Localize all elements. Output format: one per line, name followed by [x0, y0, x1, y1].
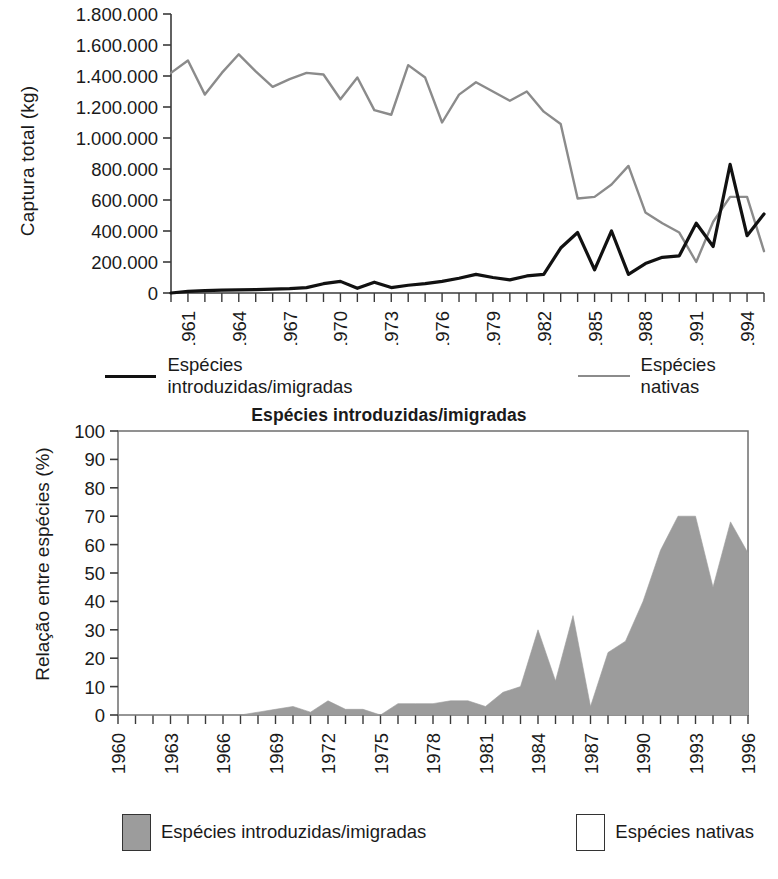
chart1-y-tick-label: 0 [148, 283, 158, 304]
chart2-x-tick-label: 1972 [318, 733, 339, 774]
chart1-y-tick-label: 600.000 [91, 190, 158, 211]
chart2-y-tick-label: 60 [84, 535, 105, 556]
chart1-series-introduzidas [171, 164, 764, 293]
chart1-y-tick-label: 400.000 [91, 221, 158, 242]
chart1-y-tick-label: 1.400.000 [76, 66, 158, 87]
chart1-plot: 0200.000400.000600.000800.0001.000.0001.… [0, 0, 778, 345]
chart2-x-tick-label: 1975 [371, 733, 392, 774]
chart1-x-tick-label: 1991 [686, 311, 707, 345]
chart2-y-tick-label: 90 [84, 449, 105, 470]
chart1-x-tick-label: 1961 [178, 311, 199, 345]
chart1-x-tick-label: 1979 [483, 311, 504, 345]
chart1-x-tick-label: 1973 [381, 311, 402, 345]
gray-line-swatch-icon [578, 375, 629, 377]
chart2-x-tick-label: 1993 [686, 733, 707, 774]
chart2-x-tick-label: 1963 [161, 733, 182, 774]
chart2-y-tick-label: 100 [74, 421, 105, 442]
chart2-x-tick-label: 1969 [266, 733, 287, 774]
chart2-x-tick-label: 1987 [581, 733, 602, 774]
chart2-x-tick-label: 1966 [213, 733, 234, 774]
chart2-y-tick-label: 70 [84, 506, 105, 527]
chart1-x-tick-label: 1976 [432, 311, 453, 345]
chart2-y-tick-label: 30 [84, 620, 105, 641]
chart1-x-tick-label: 1982 [534, 311, 555, 345]
chart1-series-nativas [171, 54, 764, 262]
chart2-plot: 0102030405060708090100196019631966196919… [0, 405, 778, 800]
chart2-x-tick-label: 1990 [633, 733, 654, 774]
chart2-y-tick-label: 20 [84, 648, 105, 669]
filled-box-swatch-icon [122, 814, 151, 851]
dark-line-swatch-icon [105, 375, 156, 378]
legend-label-nativas: Espécies nativas [641, 354, 778, 398]
chart1-x-tick-label: 1964 [229, 311, 250, 345]
chart2-legend: Espécies introduzidas/imigradas Espécies… [0, 808, 778, 856]
chart1-y-tick-label: 1.600.000 [76, 35, 158, 56]
chart1-y-tick-label: 1.000.000 [76, 128, 158, 149]
chart1-x-tick-label: 1988 [635, 311, 656, 345]
chart1-y-tick-label: 1.800.000 [76, 4, 158, 25]
chart2-area-introduzidas [118, 516, 748, 715]
chart1-y-tick-label: 1.200.000 [76, 97, 158, 118]
chart2-y-tick-label: 80 [84, 478, 105, 499]
legend2-label-introduzidas: Espécies introduzidas/imigradas [161, 821, 426, 843]
chart1-y-tick-label: 200.000 [91, 252, 158, 273]
figure-container: Captura total (kg) 0200.000400.000600.00… [0, 0, 778, 879]
legend-label-introduzidas: Espécies introduzidas/imigradas [167, 354, 430, 398]
chart2-x-tick-label: 1978 [423, 733, 444, 774]
legend2-item-introduzidas[interactable]: Espécies introduzidas/imigradas [122, 814, 426, 851]
chart1-x-tick-label: 1970 [330, 311, 351, 345]
chart2-y-tick-label: 10 [84, 677, 105, 698]
chart1-x-tick-label: 1985 [585, 311, 606, 345]
legend2-label-nativas: Espécies nativas [615, 821, 754, 843]
chart2-y-tick-label: 40 [84, 591, 105, 612]
chart2-x-tick-label: 1984 [528, 733, 549, 774]
chart1-x-tick-label: 1967 [280, 311, 301, 345]
legend-item-nativas[interactable]: Espécies nativas [578, 354, 778, 398]
chart-captura-total: Captura total (kg) 0200.000400.000600.00… [0, 0, 778, 345]
chart-relacao-especies: Espécies introduzidas/imigradas Relação … [0, 405, 778, 800]
chart1-x-tick-label: 1994 [737, 311, 758, 345]
chart2-y-tick-label: 50 [84, 563, 105, 584]
chart1-y-tick-label: 800.000 [91, 159, 158, 180]
chart1-legend: Espécies introduzidas/imigradas Espécies… [0, 355, 778, 397]
chart2-x-tick-label: 1981 [476, 733, 497, 774]
chart2-x-tick-label: 1996 [738, 733, 759, 774]
legend2-item-nativas[interactable]: Espécies nativas [576, 814, 754, 851]
chart2-x-tick-label: 1960 [108, 733, 129, 774]
empty-box-swatch-icon [576, 814, 605, 851]
legend-item-introduzidas[interactable]: Espécies introduzidas/imigradas [105, 354, 430, 398]
chart2-y-tick-label: 0 [95, 705, 105, 726]
